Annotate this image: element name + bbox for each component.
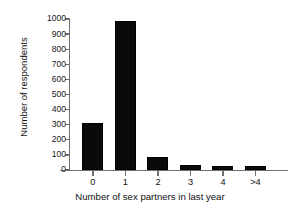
x-axis-tick-label: 1 [123, 177, 128, 187]
y-axis-tick-label: 800 [52, 45, 66, 54]
x-axis-tick [92, 171, 93, 176]
y-axis-tick-label: 1000 [47, 14, 66, 23]
x-axis-title: Number of sex partners in last year [0, 191, 300, 202]
x-axis-tick-label: 2 [155, 177, 160, 187]
bar-chart: Number of respondents 010020030040050060… [0, 0, 300, 215]
y-axis-tick-label: 900 [52, 30, 66, 39]
x-axis-tick-label: 3 [188, 177, 193, 187]
y-axis-tick-label: 300 [52, 120, 66, 129]
y-axis-tick-label: 0 [61, 165, 66, 174]
bar-0 [82, 123, 103, 170]
bar-1 [115, 21, 136, 170]
y-axis-tick-label: 500 [52, 90, 66, 99]
x-axis-tick [190, 171, 191, 176]
y-axis-tick-label: 600 [52, 75, 66, 84]
bar-4 [212, 166, 233, 170]
x-axis-tick [157, 171, 158, 176]
y-axis-tick-label: 400 [52, 105, 66, 114]
y-axis-title: Number of respondents [19, 7, 29, 167]
x-axis-tick [255, 171, 256, 176]
x-axis-tick-label: 4 [220, 177, 225, 187]
x-axis-tick-label: >4 [250, 177, 260, 187]
bar-2 [147, 157, 168, 170]
plot-area [69, 19, 282, 170]
x-axis-tick [125, 171, 126, 176]
bar-gt4 [245, 166, 266, 170]
x-axis-line [60, 170, 288, 171]
x-axis-tick-label: 0 [90, 177, 95, 187]
y-axis-tick-label: 100 [52, 150, 66, 159]
bar-3 [180, 165, 201, 170]
x-axis-tick [222, 171, 223, 176]
y-axis-tick-label: 200 [52, 135, 66, 144]
y-axis-tick-label: 700 [52, 60, 66, 69]
